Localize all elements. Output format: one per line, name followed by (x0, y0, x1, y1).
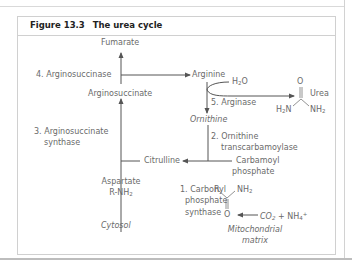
carbamoyl-nh2: NH2 (237, 184, 253, 197)
urea-h2n: H2N (276, 104, 292, 117)
enzyme-3-line1: 3. Arginosuccinate (34, 126, 108, 137)
urea-label: Urea (310, 88, 329, 99)
water-label: H2O (232, 76, 248, 89)
co2-nh4-label: CO2 + NH4+ (260, 209, 307, 224)
urea-nh2: NH2 (310, 104, 326, 117)
aspartate-label: Aspartate (98, 176, 144, 187)
arginine-label: Arginine (192, 69, 225, 80)
urea-oxygen: O (297, 76, 303, 87)
arrow-to-urea (207, 90, 294, 96)
carbamoyl-phosphate-line2: phosphate (232, 166, 274, 177)
ornithine-label: Ornithine (190, 114, 227, 125)
water-input-curve (207, 82, 229, 90)
aspartate-formula: R-NH2 (98, 187, 144, 200)
citrulline-label: Citrulline (144, 155, 180, 166)
enzyme-3-line2: synthase (44, 137, 80, 148)
mitochondrial-label-line2: matrix (220, 235, 290, 246)
carbamoyl-oxygen: O (224, 209, 230, 220)
carbamoyl-r-group: R (214, 184, 220, 195)
enzyme-2-line2: transcarbamoylase (221, 142, 298, 153)
carbamoyl-phosphate-line1: Carbamoyl (236, 155, 279, 166)
enzyme-4-label: 4. Arginosuccinase (36, 69, 111, 80)
enzyme-2-line1: 2. Ornithine (211, 131, 258, 142)
enzyme-5-label: 5. Arginase (211, 97, 256, 108)
enzyme-1-line2: phosphate (185, 195, 227, 206)
cytosol-label: Cytosol (101, 220, 131, 231)
enzyme-1-line3: synthase (185, 207, 221, 218)
mitochondrial-label-line1: Mitochondrial (220, 224, 290, 235)
fumarate-label: Fumarate (101, 37, 139, 48)
argininosuccinate-label: Arginosuccinate (88, 88, 152, 99)
